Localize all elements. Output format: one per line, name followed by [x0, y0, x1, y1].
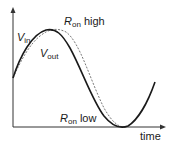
- x-axis-label: time: [140, 131, 161, 142]
- vin-label: Vin: [17, 32, 31, 45]
- ron-high-label: Ron high: [64, 16, 105, 29]
- x-axis-arrow-icon: [160, 125, 166, 130]
- vout-label: Vout: [40, 48, 58, 61]
- y-axis-arrow-icon: [11, 7, 16, 13]
- ron-low-label: Ron low: [60, 113, 96, 126]
